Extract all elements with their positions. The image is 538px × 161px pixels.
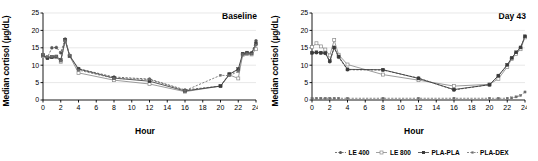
data-point — [417, 97, 419, 99]
data-point — [497, 77, 500, 80]
x-tick-label: 2 — [59, 104, 63, 111]
y-tick-label: 25 — [31, 10, 39, 16]
legend-item-le-800[interactable]: LE 800 — [376, 149, 410, 156]
data-point — [320, 97, 322, 99]
legend-marker-icon — [418, 149, 429, 156]
data-point — [184, 90, 186, 92]
data-point — [506, 97, 508, 99]
x-tick-label: 24 — [521, 104, 527, 111]
x-tick-label: 8 — [381, 104, 385, 111]
data-point — [237, 70, 239, 72]
data-point — [524, 35, 527, 38]
data-point — [311, 97, 313, 99]
x-tick-label: 4 — [77, 104, 81, 111]
plot-svg-day43: 0510152025024681012141618202224 — [297, 10, 527, 116]
data-point — [333, 97, 335, 99]
y-tick-label: 20 — [300, 27, 308, 34]
chart-legend: LE 400LE 800PLA-PLAPLA-DEX — [335, 146, 535, 158]
data-point — [382, 97, 384, 99]
x-tick-label: 14 — [432, 104, 440, 111]
data-point — [328, 60, 331, 63]
x-tick-label: 10 — [397, 104, 405, 111]
legend-item-le-400[interactable]: LE 400 — [335, 149, 369, 156]
x-tick-label: 10 — [128, 104, 136, 111]
plot-area-baseline: 0510152025024681012141618202224 — [28, 10, 258, 116]
data-point — [515, 51, 518, 54]
data-point — [453, 88, 456, 91]
data-point — [55, 46, 58, 49]
data-point — [315, 42, 318, 45]
data-point — [50, 46, 53, 49]
data-point — [497, 97, 499, 99]
y-tick-label: 0 — [304, 96, 308, 103]
data-point — [488, 97, 490, 99]
data-point — [346, 97, 348, 99]
data-point — [311, 46, 314, 49]
plot-svg-baseline: 0510152025024681012141618202224 — [28, 10, 258, 116]
data-point — [148, 78, 150, 80]
x-tick-label: 22 — [234, 104, 242, 111]
x-tick-label: 20 — [217, 104, 225, 111]
legend-label: PLA-PLA — [431, 149, 459, 156]
legend-item-pla-pla[interactable]: PLA-PLA — [418, 149, 460, 156]
x-tick-label: 6 — [363, 104, 367, 111]
data-point — [497, 74, 500, 77]
plot-area-day43: 0510152025024681012141618202224 — [297, 10, 527, 116]
data-point — [255, 48, 258, 51]
data-point — [250, 53, 252, 55]
legend-marker-icon — [376, 149, 387, 156]
data-point — [46, 56, 48, 58]
x-tick-label: 0 — [41, 104, 45, 111]
x-tick-label: 8 — [112, 104, 116, 111]
x-tick-label: 18 — [468, 104, 476, 111]
data-point — [333, 39, 336, 42]
data-point — [319, 45, 322, 48]
x-tick-label: 12 — [415, 104, 423, 111]
x-tick-label: 18 — [199, 104, 207, 111]
data-point — [255, 44, 257, 46]
y-tick-label: 5 — [304, 79, 308, 86]
x-tick-label: 14 — [163, 104, 171, 111]
y-tick-label: 25 — [300, 10, 308, 16]
x-tick-label: 12 — [146, 104, 154, 111]
data-point — [148, 82, 151, 85]
data-point — [319, 51, 322, 54]
data-point — [246, 53, 248, 55]
y-tick-label: 15 — [300, 44, 308, 51]
x-tick-label: 6 — [94, 104, 98, 111]
x-tick-label: 16 — [181, 104, 189, 111]
data-point — [69, 54, 71, 56]
legend-label: LE 400 — [349, 149, 370, 156]
legend-marker-icon — [335, 149, 346, 156]
data-point — [506, 63, 509, 66]
data-point — [77, 71, 80, 74]
data-point — [315, 97, 317, 99]
data-point — [519, 94, 521, 96]
data-point — [417, 77, 420, 80]
x-tick-label: 4 — [346, 104, 350, 111]
y-tick-label: 0 — [35, 96, 39, 103]
data-point — [219, 74, 221, 76]
data-point — [77, 69, 79, 71]
data-point — [64, 40, 66, 42]
data-point — [488, 83, 491, 86]
x-axis-title: Hour — [299, 126, 529, 136]
y-axis-title: Median cortisol (µg/dL) — [268, 0, 282, 122]
data-point — [337, 55, 340, 58]
data-point — [382, 68, 385, 71]
data-point — [338, 97, 340, 99]
data-point — [42, 53, 44, 55]
data-point — [346, 63, 349, 66]
data-point — [311, 51, 314, 54]
data-point — [242, 53, 244, 55]
legend-item-pla-dex[interactable]: PLA-DEX — [467, 149, 509, 156]
data-point — [237, 77, 240, 80]
x-tick-label: 20 — [486, 104, 494, 111]
data-point — [515, 96, 517, 98]
data-point — [324, 97, 326, 99]
data-point — [255, 39, 258, 42]
x-tick-label: 2 — [328, 104, 332, 111]
x-tick-label: 24 — [252, 104, 258, 111]
x-tick-label: 16 — [450, 104, 458, 111]
y-tick-label: 20 — [31, 27, 39, 34]
